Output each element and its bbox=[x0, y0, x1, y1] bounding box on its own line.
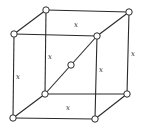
edge-top-left-depth bbox=[14, 10, 46, 34]
label-front-right-vertical: x bbox=[99, 66, 103, 74]
atom-front-top-left bbox=[11, 31, 17, 37]
edge-bottom-left-depth bbox=[13, 94, 45, 118]
label-bottom: x bbox=[66, 104, 70, 112]
atom-back-top-left bbox=[43, 7, 49, 13]
cube-diagram: x x x x x x bbox=[0, 0, 142, 126]
atom-front-top-right bbox=[94, 33, 100, 39]
atom-body-center bbox=[68, 62, 74, 68]
atom-front-bottom-left bbox=[10, 115, 16, 121]
edge-bottom-right-depth bbox=[95, 94, 127, 119]
edge-back-top bbox=[46, 10, 129, 12]
edge-front-right bbox=[95, 36, 97, 119]
atom-front-bottom-right bbox=[92, 116, 98, 122]
edge-front-bottom bbox=[13, 118, 95, 119]
atom-back-top-right bbox=[126, 9, 132, 15]
label-right-back-vertical: x bbox=[131, 50, 135, 58]
edge-back-left bbox=[45, 10, 46, 94]
edge-top-right-depth bbox=[97, 12, 129, 36]
edge-back-right bbox=[127, 12, 129, 94]
atom-back-bottom-left bbox=[42, 91, 48, 97]
label-front-left-vertical: x bbox=[16, 73, 20, 81]
label-back-left-vertical: x bbox=[48, 53, 52, 61]
atom-back-bottom-right bbox=[124, 91, 130, 97]
edge-front-top bbox=[14, 34, 97, 36]
edge-front-left bbox=[13, 34, 14, 118]
label-top-back: x bbox=[74, 21, 78, 29]
